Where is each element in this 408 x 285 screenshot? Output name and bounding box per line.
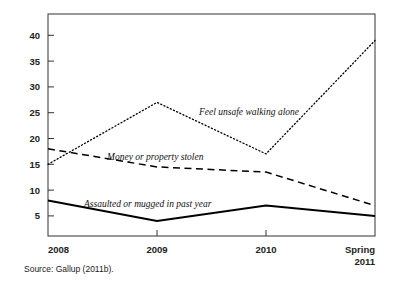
series-label-feel-unsafe: Feel unsafe walking alone — [198, 107, 299, 117]
y-tick-label-40: 40 — [29, 30, 40, 41]
x-tick-label-2010: 2010 — [255, 244, 276, 255]
x-tick-label-spring: Spring — [345, 244, 375, 255]
source-note: Source: Gallup (2011b). — [24, 264, 114, 274]
x-tick-label-2009: 2009 — [146, 244, 167, 255]
y-tick-label-25: 25 — [29, 107, 40, 118]
y-tick-label-5: 5 — [35, 210, 41, 221]
y-tick-label-20: 20 — [29, 133, 40, 144]
x-tick-label-2008: 2008 — [48, 244, 69, 255]
y-tick-label-35: 35 — [29, 56, 40, 67]
y-tick-label-10: 10 — [29, 185, 40, 196]
series-label-money-stolen: Money or property stolen — [106, 152, 204, 162]
y-axis-tick-labels: 40 35 30 25 20 15 10 5 — [29, 30, 40, 222]
y-tick-label-15: 15 — [29, 159, 40, 170]
line-chart-figure: 40 35 30 25 20 15 10 5 2008 2009 2010 Sp… — [0, 0, 408, 285]
series-label-assaulted: Assaulted or mugged in past year — [83, 199, 212, 209]
y-tick-label-30: 30 — [29, 81, 40, 92]
chart-svg: 40 35 30 25 20 15 10 5 2008 2009 2010 Sp… — [0, 0, 408, 285]
x-tick-label-2011: 2011 — [354, 256, 375, 267]
